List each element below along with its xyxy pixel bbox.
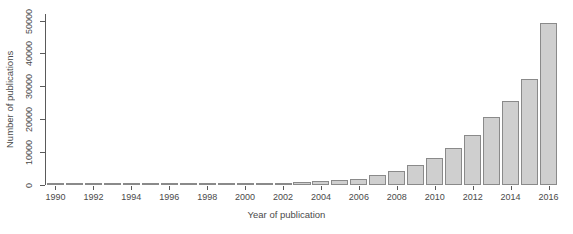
x-tick [321,186,322,190]
x-tick [245,186,246,190]
x-tick [549,186,550,190]
x-tick-label: 2006 [349,192,369,203]
x-tick [397,186,398,190]
y-tick-label: 40000 [18,37,40,69]
bar [331,180,348,185]
bar [426,158,443,185]
y-tick-label: 10000 [18,136,40,168]
y-tick [40,21,45,22]
bar [445,148,462,185]
y-tick-label: 20000 [18,103,40,135]
bar [161,183,178,185]
x-tick [435,186,436,190]
bar [218,183,235,185]
bar [388,171,405,185]
x-tick-label: 1990 [45,192,65,203]
x-tick [473,186,474,190]
x-tick-label: 2012 [463,192,483,203]
bar [123,183,140,185]
x-tick [359,186,360,190]
bar [293,182,310,185]
x-tick [511,186,512,190]
x-tick [93,186,94,190]
x-tick-label: 2002 [273,192,293,203]
bar [85,183,102,185]
x-tick [131,186,132,190]
x-tick-label: 1992 [83,192,103,203]
bar [180,183,197,185]
x-axis-title: Year of publication [0,209,573,221]
y-tick [40,119,45,120]
y-tick-label: 0 [18,169,40,201]
x-tick-label: 1998 [197,192,217,203]
bar [521,79,538,185]
x-tick-label: 1996 [159,192,179,203]
x-tick [283,186,284,190]
y-tick [40,185,45,186]
bar [199,183,216,185]
y-tick [40,152,45,153]
publications-bar-chart: Number of publications 01000020000300004… [0,0,573,234]
bar [104,183,121,185]
x-tick [55,186,56,190]
x-tick-label: 2008 [387,192,407,203]
bar [142,183,159,185]
x-tick-label: 2014 [501,192,521,203]
x-tick [169,186,170,190]
y-tick [40,53,45,54]
bar [502,101,519,185]
bar [312,181,329,185]
bar [256,183,273,185]
bar [369,175,386,185]
x-tick-label: 2000 [235,192,255,203]
bar [540,23,557,185]
plot-area [46,14,558,185]
x-tick [207,186,208,190]
bar [350,179,367,185]
y-axis-title: Number of publications [4,14,16,185]
x-tick-label: 1994 [121,192,141,203]
bar [66,183,83,185]
bar [483,117,500,185]
bar [407,165,424,185]
bar [47,183,64,185]
bar [275,183,292,185]
x-tick-label: 2004 [311,192,331,203]
bar [237,183,254,185]
y-tick [40,86,45,87]
x-tick-label: 2010 [425,192,445,203]
x-tick-label: 2016 [539,192,559,203]
y-tick-label: 30000 [18,70,40,102]
y-tick-label: 50000 [18,5,40,37]
bar [464,135,481,185]
